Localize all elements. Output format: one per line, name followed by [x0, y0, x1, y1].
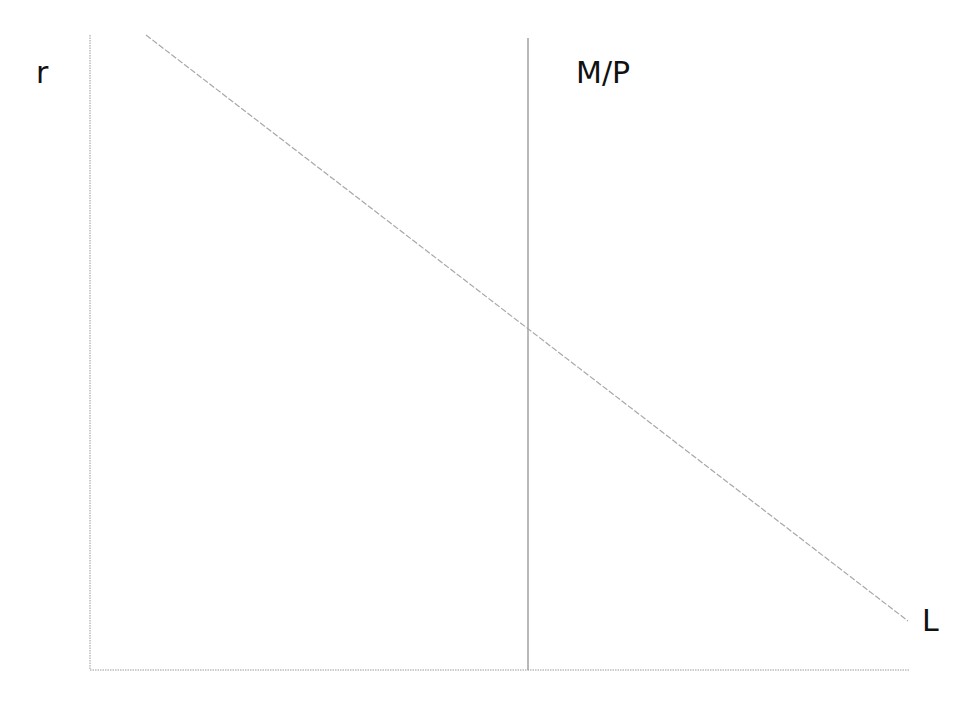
y-axis-label: r: [36, 58, 48, 88]
money-demand-line: [146, 35, 908, 621]
demand-label: L: [922, 606, 939, 636]
money-market-diagram: [0, 0, 972, 703]
supply-label: M/P: [576, 58, 630, 88]
